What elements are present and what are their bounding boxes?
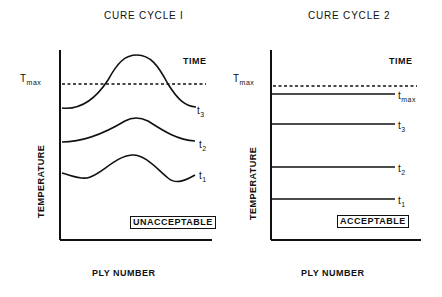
curve-t3 bbox=[62, 55, 196, 108]
panel-1-label-t2: t2 bbox=[199, 139, 207, 152]
panel-1-label-t1: t1 bbox=[199, 170, 207, 183]
panel-2-title: CURE CYCLE 2 bbox=[308, 10, 390, 21]
curve-t2 bbox=[62, 118, 195, 142]
panel-2-verdict-badge: ACCEPTABLE bbox=[337, 215, 409, 228]
panel-2-label-t1: t1 bbox=[398, 195, 406, 208]
panel-2-tmax-label: Tmax bbox=[233, 73, 254, 86]
panel-1-y-axis-label: TEMPERATURE bbox=[36, 145, 46, 218]
diagram-canvas bbox=[0, 0, 442, 297]
panel-2-label-tmax: tmax bbox=[398, 90, 416, 103]
panel-2-label-t2: t2 bbox=[398, 163, 406, 176]
panel-1-tmax-label: Tmax bbox=[20, 73, 41, 86]
curve-t1 bbox=[62, 155, 195, 182]
panel-1-verdict-badge: UNACCEPTABLE bbox=[130, 216, 216, 229]
cure-cycle-2-axes bbox=[271, 50, 421, 240]
panel-2-time-label: TIME bbox=[389, 56, 413, 66]
panel-1-label-t3: t3 bbox=[197, 105, 205, 118]
panel-2-x-axis-label: PLY NUMBER bbox=[301, 268, 365, 278]
panel-2-y-axis-label: TEMPERATURE bbox=[248, 147, 258, 220]
panel-1-title: CURE CYCLE I bbox=[104, 10, 184, 21]
panel-2-label-t3: t3 bbox=[398, 120, 406, 133]
panel-1-time-label: TIME bbox=[183, 56, 207, 66]
panel-1-x-axis-label: PLY NUMBER bbox=[92, 268, 156, 278]
cure-cycle-1-axes bbox=[60, 50, 212, 240]
